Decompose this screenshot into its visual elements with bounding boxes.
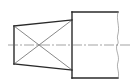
taper-top-edge <box>14 20 72 26</box>
flat-diagonal-2 <box>14 20 72 64</box>
taper-bottom-edge <box>14 64 72 70</box>
flat-diagonal-1 <box>14 26 72 70</box>
drawing-canvas <box>0 0 137 83</box>
